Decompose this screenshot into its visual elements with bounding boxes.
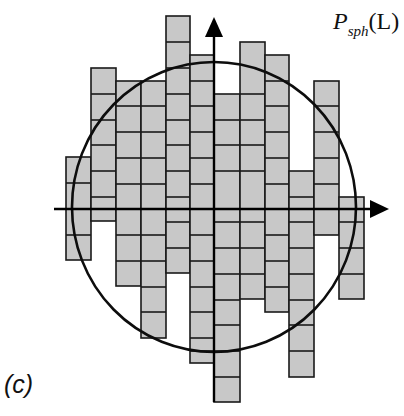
histogram-column-2: [91, 68, 116, 221]
function-subscript: sph: [348, 23, 369, 39]
function-symbol: P: [333, 8, 348, 34]
y-axis-arrow-icon: [205, 17, 223, 37]
function-argument: (L): [369, 8, 400, 34]
histogram-column-9: [265, 55, 289, 312]
histogram-column-11: [314, 81, 339, 235]
panel-label: (c): [4, 370, 33, 399]
histogram-column-5: [166, 16, 190, 273]
histogram-column-10: [289, 171, 314, 377]
function-label: Psph(L): [333, 8, 399, 35]
x-axis-arrow-icon: [370, 200, 389, 218]
figure-canvas: Psph(L) (c): [0, 0, 404, 416]
histogram-column-7: [214, 94, 240, 402]
histogram-diagram: [0, 0, 404, 416]
histogram-column-3: [116, 81, 141, 286]
histogram-column-8: [240, 42, 265, 299]
